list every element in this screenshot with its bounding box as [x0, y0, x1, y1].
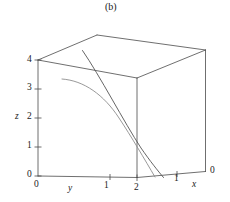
box-wireframe: [38, 35, 206, 178]
box-edge-top-left-back: [38, 35, 97, 60]
y-tick-label-1: 1: [104, 181, 109, 191]
axis-line-y: [38, 176, 137, 178]
z-tick-label-2: 2: [27, 112, 32, 122]
curve-steep: [83, 51, 164, 178]
figure-container: (b): [0, 0, 230, 202]
z-tick-label-4: 4: [27, 55, 32, 65]
box-edge-top-back-right: [97, 35, 206, 50]
x-axis-label: x: [192, 180, 196, 190]
z-tick-label-1: 1: [27, 141, 32, 151]
y-tick-label-0: 0: [34, 180, 39, 190]
z-axis-label: z: [15, 112, 19, 122]
box-edge-top-left-front: [38, 60, 137, 78]
axis-line-x: [137, 172, 206, 178]
box-edge-top-front-right: [137, 50, 206, 78]
data-curves: [62, 51, 164, 178]
x-tick-label-0: 0: [210, 166, 215, 176]
plot-canvas: [0, 0, 230, 202]
x-tick-label-1: 1: [174, 174, 179, 184]
z-tick-label-0: 0: [27, 170, 32, 180]
y-axis-label: y: [68, 184, 72, 194]
z-tick-label-3: 3: [27, 83, 32, 93]
y-tick-label-2: 2: [134, 183, 139, 193]
